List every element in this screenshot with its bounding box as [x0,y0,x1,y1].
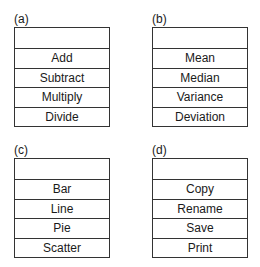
panel-label: (c) [14,143,28,157]
menu-d: Copy Rename Save Print [152,158,248,258]
menu-title-bar [153,28,247,48]
menu-title-bar [153,159,247,179]
menu-item-line[interactable]: Line [15,199,109,219]
menu-item-add[interactable]: Add [15,48,109,68]
menu-item-deviation[interactable]: Deviation [153,107,247,127]
menu-item-rename[interactable]: Rename [153,199,247,219]
menu-item-print[interactable]: Print [153,238,247,258]
menu-item-mean[interactable]: Mean [153,48,247,68]
menu-item-multiply[interactable]: Multiply [15,87,109,107]
menu-item-bar[interactable]: Bar [15,179,109,199]
panel-label: (d) [152,143,167,157]
menu-item-pie[interactable]: Pie [15,218,109,238]
menu-b: Mean Median Variance Deviation [152,27,248,127]
menu-item-copy[interactable]: Copy [153,179,247,199]
menu-item-variance[interactable]: Variance [153,87,247,107]
menu-title-bar [15,159,109,179]
menu-item-save[interactable]: Save [153,218,247,238]
menu-a: Add Subtract Multiply Divide [14,27,110,127]
panel-label: (a) [14,12,29,26]
menu-item-median[interactable]: Median [153,68,247,88]
menu-item-divide[interactable]: Divide [15,107,109,127]
menu-item-subtract[interactable]: Subtract [15,68,109,88]
menu-title-bar [15,28,109,48]
menu-c: Bar Line Pie Scatter [14,158,110,258]
panel-label: (b) [152,12,167,26]
menu-item-scatter[interactable]: Scatter [15,238,109,258]
